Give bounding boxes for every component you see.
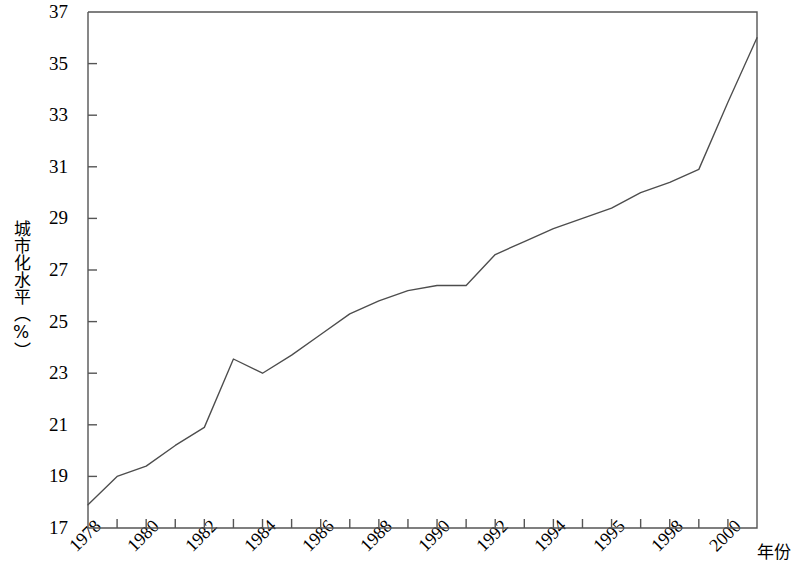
plot-area [0, 0, 803, 580]
chart-page: 城市化水平（%） 年份 1719212325272931333537 19781… [0, 0, 803, 580]
x-axis-ticks [117, 519, 728, 528]
data-series-line [88, 38, 757, 505]
y-axis-ticks [88, 64, 97, 477]
line-chart: 城市化水平（%） 年份 1719212325272931333537 19781… [0, 0, 803, 580]
axis-frame [88, 12, 757, 528]
